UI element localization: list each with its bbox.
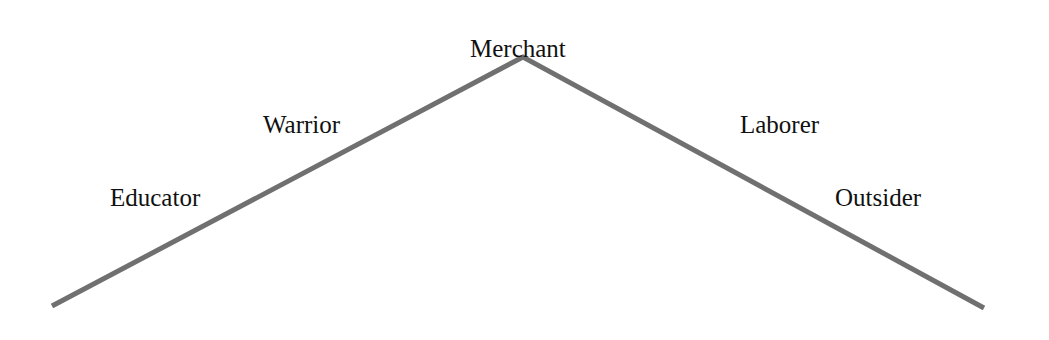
hierarchy-diagram: Merchant Warrior Educator Laborer Outsid… bbox=[0, 0, 1049, 340]
label-laborer: Laborer bbox=[740, 112, 819, 137]
label-warrior: Warrior bbox=[263, 112, 340, 137]
label-merchant: Merchant bbox=[470, 36, 566, 61]
label-outsider: Outsider bbox=[835, 185, 921, 210]
label-educator: Educator bbox=[110, 185, 200, 210]
